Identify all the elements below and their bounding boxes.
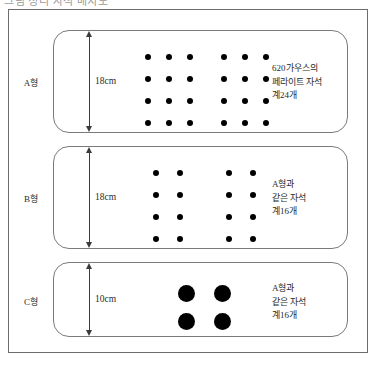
magnet-dot	[263, 76, 269, 82]
magnet-dot	[214, 285, 231, 302]
magnet-grid-b-right	[217, 162, 265, 250]
magnet-dot	[145, 120, 151, 126]
magnet-dot	[250, 236, 256, 242]
type-label-b: B형	[11, 192, 51, 205]
magnet-dot	[250, 192, 256, 198]
magnet-dot	[242, 120, 248, 126]
figure-frame: A형 18cm 620가우스의 페라이트 자석 계24개 B형	[8, 9, 368, 353]
magnet-grid-a-right	[213, 46, 276, 134]
annotation-b-line1: A형과	[272, 178, 306, 192]
magnet-dot	[177, 170, 183, 176]
annotation-c-line3: 계16개	[272, 309, 306, 323]
annotation-a-line3: 계24개	[272, 89, 322, 103]
magnet-dot	[221, 76, 227, 82]
magnet-dot	[250, 214, 256, 220]
magnet-dot	[242, 98, 248, 104]
magnet-dot	[166, 120, 172, 126]
magnet-dot	[145, 98, 151, 104]
annotation-b-line3: 계16개	[272, 205, 306, 219]
magnet-dot	[153, 214, 159, 220]
annotation-c-line2: 같은 자석	[272, 296, 306, 310]
magnet-dot	[153, 192, 159, 198]
magnet-grid-b-left	[144, 162, 192, 250]
annotation-c: A형과 같은 자석 계16개	[272, 282, 306, 323]
magnet-dot	[153, 170, 159, 176]
magnet-dot	[177, 214, 183, 220]
magnet-dot	[226, 192, 232, 198]
magnet-dot	[226, 236, 232, 242]
dimension-arrow-a	[89, 37, 90, 126]
top-caption-strip: 그림 정리 자석 배치도	[0, 0, 384, 7]
dimension-label-c: 10cm	[95, 294, 116, 304]
dimension-arrow-c	[89, 269, 90, 330]
magnet-dot	[153, 236, 159, 242]
magnet-dot	[187, 54, 193, 60]
magnet-dot	[221, 54, 227, 60]
annotation-a: 620가우스의 페라이트 자석 계24개	[272, 62, 322, 103]
magnet-dot	[187, 76, 193, 82]
magnet-dot	[226, 214, 232, 220]
magnet-dot	[263, 54, 269, 60]
magnet-dot	[177, 192, 183, 198]
magnet-grid-a-left	[137, 46, 200, 134]
magnet-dot	[178, 285, 195, 302]
magnet-dot	[166, 98, 172, 104]
annotation-b-line2: 같은 자석	[272, 192, 306, 206]
magnet-dot	[226, 170, 232, 176]
magnet-dot	[221, 120, 227, 126]
magnet-dot	[178, 313, 195, 330]
annotation-a-line2: 페라이트 자석	[272, 76, 322, 90]
type-label-a: A형	[11, 76, 51, 89]
magnet-dot	[250, 170, 256, 176]
magnet-dot	[242, 54, 248, 60]
magnet-dot	[263, 120, 269, 126]
magnet-dot	[177, 236, 183, 242]
magnet-dot	[263, 98, 269, 104]
annotation-c-line1: A형과	[272, 282, 306, 296]
annotation-a-line1: 620가우스의	[272, 62, 322, 76]
magnet-dot	[221, 98, 227, 104]
magnet-dot	[166, 54, 172, 60]
dimension-label-a: 18cm	[95, 76, 116, 86]
top-caption-text: 그림 정리 자석 배치도	[4, 0, 108, 7]
magnet-dot	[187, 98, 193, 104]
magnet-dot	[242, 76, 248, 82]
magnet-dot	[187, 120, 193, 126]
magnet-dot	[214, 313, 231, 330]
magnet-dot	[145, 76, 151, 82]
type-label-c: C형	[11, 295, 51, 308]
dimension-arrow-b	[89, 153, 90, 242]
magnet-dot	[166, 76, 172, 82]
magnet-dot	[145, 54, 151, 60]
magnet-grid-c	[168, 279, 240, 335]
annotation-b: A형과 같은 자석 계16개	[272, 178, 306, 219]
dimension-label-b: 18cm	[95, 192, 116, 202]
